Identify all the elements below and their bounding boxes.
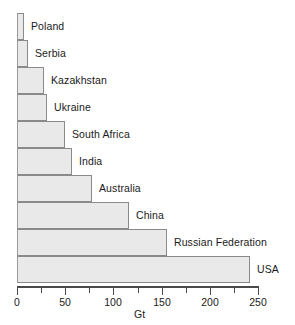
bar-label: Russian Federation	[174, 229, 267, 256]
bar-label: Poland	[31, 13, 64, 40]
plot-area: PolandSerbiaKazakhstanUkraineSouth Afric…	[0, 0, 295, 286]
x-tick-minor	[234, 288, 235, 293]
x-tick-label: 200	[201, 296, 219, 308]
bar-row: Kazakhstan	[0, 67, 295, 94]
bar-label: USA	[257, 256, 279, 283]
x-tick-label: 100	[104, 296, 122, 308]
bar-label: Australia	[99, 175, 141, 202]
bar-row: China	[0, 202, 295, 229]
bar-row: Russian Federation	[0, 229, 295, 256]
bar-label: India	[79, 148, 102, 175]
bar-label: Ukraine	[54, 94, 91, 121]
x-tick-major	[162, 288, 163, 295]
bar-label: Kazakhstan	[51, 67, 107, 94]
bar	[17, 256, 250, 283]
bar-row: USA	[0, 256, 295, 283]
bar	[17, 202, 129, 229]
bar-label: Serbia	[35, 40, 66, 67]
bar-row: South Africa	[0, 121, 295, 148]
x-tick-major	[17, 288, 18, 295]
x-tick-major	[258, 288, 259, 295]
bar-row: India	[0, 148, 295, 175]
x-tick-major	[65, 288, 66, 295]
x-tick-major	[210, 288, 211, 295]
bar	[17, 229, 167, 256]
x-tick-minor	[186, 288, 187, 293]
x-tick-minor	[41, 288, 42, 293]
bar-row: Ukraine	[0, 94, 295, 121]
x-tick-minor	[89, 288, 90, 293]
bar-row: Australia	[0, 175, 295, 202]
x-axis-title: Gt	[134, 308, 145, 320]
bar	[17, 121, 65, 148]
x-tick-label: 150	[153, 296, 171, 308]
bar-chart: PolandSerbiaKazakhstanUkraineSouth Afric…	[0, 0, 295, 325]
x-tick-label: 0	[14, 296, 20, 308]
bar	[17, 175, 92, 202]
bar-label: South Africa	[72, 121, 130, 148]
bar	[17, 67, 44, 94]
bar-row: Serbia	[0, 40, 295, 67]
bar	[17, 13, 24, 40]
x-tick-major	[113, 288, 114, 295]
bar-row: Poland	[0, 13, 295, 40]
bar	[17, 40, 28, 67]
bar	[17, 94, 47, 121]
x-tick-minor	[138, 288, 139, 293]
bar	[17, 148, 72, 175]
x-tick-label: 250	[249, 296, 267, 308]
x-tick-label: 50	[59, 296, 71, 308]
bar-label: China	[136, 202, 164, 229]
